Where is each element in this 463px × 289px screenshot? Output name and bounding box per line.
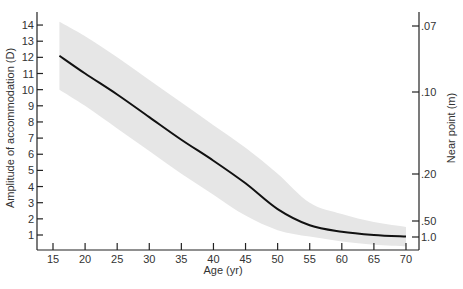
x-tick-label: 55 bbox=[304, 253, 316, 265]
y-tick-label: 10 bbox=[22, 84, 34, 96]
x-tick-label: 60 bbox=[336, 253, 348, 265]
x-tick-label: 15 bbox=[47, 253, 59, 265]
range-band bbox=[59, 22, 406, 246]
y2-tick-label: 1.0 bbox=[421, 231, 436, 243]
y-tick-label: 12 bbox=[22, 51, 34, 63]
x-tick-label: 50 bbox=[272, 253, 284, 265]
y-tick-label: 1 bbox=[28, 229, 34, 241]
x-axis-title: Age (yr) bbox=[203, 264, 242, 276]
y-tick-label: 6 bbox=[28, 148, 34, 160]
x-tick-label: 70 bbox=[400, 253, 412, 265]
y-tick-label: 7 bbox=[28, 132, 34, 144]
y-tick-label: 14 bbox=[22, 19, 34, 31]
x-tick-label: 30 bbox=[143, 253, 155, 265]
y2-tick-label: .20 bbox=[421, 168, 436, 180]
y-tick-label: 3 bbox=[28, 197, 34, 209]
y2-axis-title: Near point (m) bbox=[445, 93, 457, 163]
y-tick-label: 9 bbox=[28, 100, 34, 112]
x-tick-label: 20 bbox=[79, 253, 91, 265]
x-tick-label: 25 bbox=[111, 253, 123, 265]
y-axis-title: Amplitude of accommodation (D) bbox=[4, 48, 16, 208]
y-tick-label: 8 bbox=[28, 116, 34, 128]
y-tick-label: 11 bbox=[23, 68, 34, 80]
y-tick-label: 2 bbox=[28, 213, 34, 225]
y-tick-label: 4 bbox=[28, 181, 34, 193]
y-tick-label: 13 bbox=[22, 35, 34, 47]
y-tick-label: 5 bbox=[28, 164, 34, 176]
range-band-area bbox=[59, 22, 406, 246]
y2-tick-label: .10 bbox=[421, 86, 436, 98]
y2-tick-label: .07 bbox=[421, 20, 436, 32]
x-tick-label: 35 bbox=[175, 253, 187, 265]
accommodation-chart: 1234567891011121314152025303540455055606… bbox=[0, 0, 463, 289]
x-tick-label: 65 bbox=[368, 253, 380, 265]
y2-tick-label: .50 bbox=[421, 215, 436, 227]
